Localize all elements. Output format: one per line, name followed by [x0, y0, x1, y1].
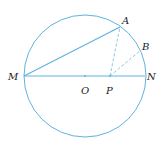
- point-o: [84, 75, 86, 77]
- label-b: B: [141, 41, 149, 52]
- chord-ma: [24, 27, 120, 76]
- label-a: A: [121, 15, 129, 26]
- label-m: M: [7, 71, 19, 82]
- label-p: P: [105, 85, 113, 96]
- label-n: N: [146, 71, 157, 82]
- label-o: O: [81, 85, 89, 96]
- circle-diagram: M N O P A B: [0, 0, 162, 149]
- point-p: [109, 75, 111, 77]
